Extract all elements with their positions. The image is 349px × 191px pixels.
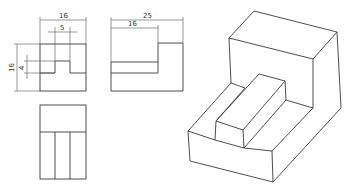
dim-slot-width: 5 [60,24,64,32]
dim-side-lower-depth: 16 [128,20,137,28]
dim-side-depth: 25 [143,12,152,20]
isometric-view [188,11,341,182]
front-view: 16 5 16 4 [8,12,86,91]
dim-slot-depth: 4 [18,65,26,70]
orthographic-drawing: 16 5 16 4 25 16 [0,0,349,191]
top-view [40,105,86,179]
side-view: 25 16 [111,12,183,91]
dim-front-width: 16 [59,12,68,20]
dim-front-height: 16 [8,63,16,72]
